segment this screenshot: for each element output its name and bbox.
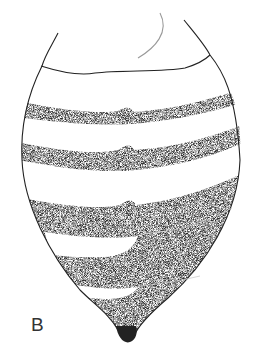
abdomen-illustration [0, 0, 253, 359]
faint-curve [138, 13, 163, 58]
dark-bands [18, 88, 245, 359]
panel-label: B [31, 315, 44, 334]
terminal-tip [116, 326, 137, 342]
segment-margin [41, 55, 210, 74]
dark-band-2 [18, 124, 245, 171]
dark-band-1 [18, 88, 245, 125]
